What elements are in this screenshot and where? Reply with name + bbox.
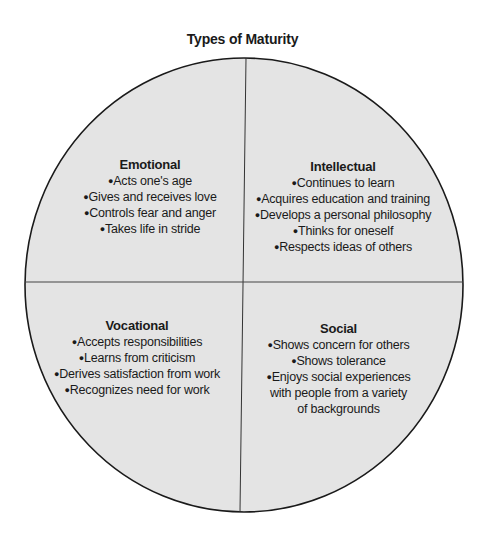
list-item: ●Controls fear and anger <box>60 205 240 221</box>
list-item: ●Respects ideas of others <box>243 239 443 255</box>
list-item: ●Accepts responsibilities <box>42 334 232 350</box>
list-item: ●Thinks for oneself <box>243 223 443 239</box>
list-item: ●Derives satisfaction from work <box>42 366 232 382</box>
list-item-continuation: of backgrounds <box>256 401 421 417</box>
list-item: ●Develops a personal philosophy <box>243 207 443 223</box>
quadrant-heading: Intellectual <box>243 158 443 175</box>
list-item: ●Continues to learn <box>243 175 443 191</box>
maturity-circle <box>0 0 485 546</box>
list-item: ●Shows concern for others <box>256 337 421 353</box>
quadrant-emotional: Emotional ●Acts one's age ●Gives and rec… <box>60 156 240 237</box>
quadrant-intellectual: Intellectual ●Continues to learn ●Acquir… <box>243 158 443 255</box>
list-item: ●Acquires education and training <box>243 191 443 207</box>
quadrant-vocational: Vocational ●Accepts responsibilities ●Le… <box>42 317 232 398</box>
list-item: ●Learns from criticism <box>42 350 232 366</box>
list-item: ●Shows tolerance <box>256 353 421 369</box>
list-item: ●Enjoys social experiences <box>256 369 421 385</box>
list-item: ●Acts one's age <box>60 173 240 189</box>
quadrant-heading: Emotional <box>60 156 240 173</box>
quadrant-heading: Vocational <box>42 317 232 334</box>
list-item: ●Gives and receives love <box>60 189 240 205</box>
quadrant-heading: Social <box>256 320 421 337</box>
quadrant-social: Social ●Shows concern for others ●Shows … <box>256 320 421 417</box>
list-item-continuation: with people from a variety <box>256 385 421 401</box>
list-item: ●Recognizes need for work <box>42 382 232 398</box>
list-item: ●Takes life in stride <box>60 221 240 237</box>
